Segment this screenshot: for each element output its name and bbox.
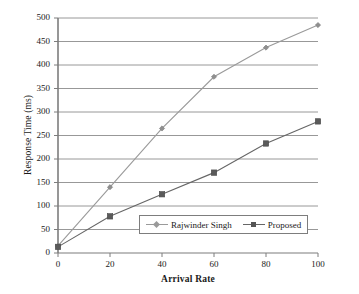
y-tick-label: 350 <box>16 83 50 93</box>
data-point-marker <box>263 141 268 146</box>
data-point-marker <box>159 192 164 197</box>
legend-label-rajwinder-singh: Rajwinder Singh <box>171 220 232 230</box>
legend-label-proposed: Proposed <box>268 220 302 230</box>
x-tick-label: 80 <box>251 259 281 269</box>
legend-item-proposed[interactable]: Proposed <box>243 220 302 230</box>
x-tick-label: 100 <box>303 259 333 269</box>
y-tick-label: 100 <box>16 200 50 210</box>
y-tick-label: 500 <box>16 12 50 22</box>
x-tick-label: 20 <box>95 259 125 269</box>
data-point-marker <box>315 22 320 27</box>
y-tick-label: 400 <box>16 59 50 69</box>
chart-figure: Response Time (ms) 050100150200250300350… <box>0 0 359 294</box>
y-tick-label: 200 <box>16 153 50 163</box>
data-point-marker <box>107 214 112 219</box>
chart-legend: Rajwinder Singh Proposed <box>139 215 308 234</box>
data-point-marker <box>263 45 268 50</box>
y-tick-label: 450 <box>16 36 50 46</box>
x-tick-label: 40 <box>147 259 177 269</box>
x-axis-title: Arrival Rate <box>56 274 320 284</box>
legend-item-rajwinder-singh[interactable]: Rajwinder Singh <box>146 220 232 230</box>
y-tick-label: 50 <box>16 224 50 234</box>
legend-swatch-diamond-icon <box>146 220 168 229</box>
y-tick-label: 250 <box>16 130 50 140</box>
line-chart-plot <box>0 0 359 294</box>
legend-swatch-square-icon <box>243 220 265 229</box>
gridlines <box>58 18 318 230</box>
data-point-marker <box>315 119 320 124</box>
y-tick-label: 300 <box>16 106 50 116</box>
y-tick-label: 150 <box>16 177 50 187</box>
y-tick-label: 0 <box>16 247 50 257</box>
x-tick-label: 0 <box>43 259 73 269</box>
data-point-marker <box>55 244 60 249</box>
data-point-marker <box>211 170 216 175</box>
x-tick-label: 60 <box>199 259 229 269</box>
